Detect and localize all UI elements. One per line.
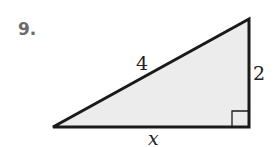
horizontal-leg-label: x (148, 127, 159, 147)
vertical-leg-label: 2 (253, 62, 265, 84)
right-triangle-diagram: 4 2 x (0, 0, 279, 147)
triangle-shape (53, 19, 249, 127)
hypotenuse-label: 4 (136, 52, 148, 74)
